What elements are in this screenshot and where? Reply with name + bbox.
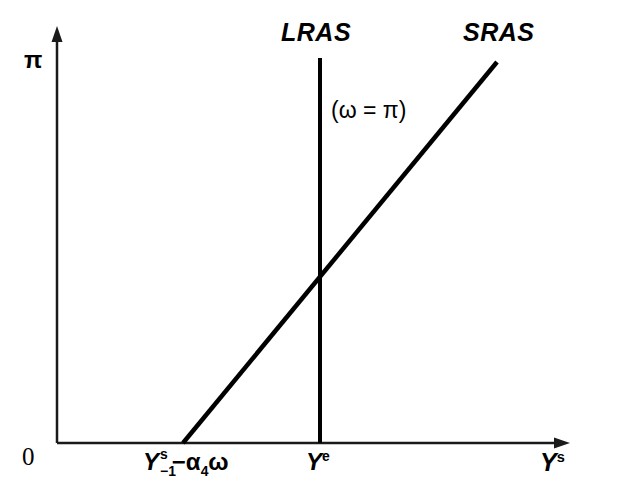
omega-equals-pi-annotation: (ω = π) bbox=[331, 99, 406, 122]
sras-intercept-alpha: α bbox=[186, 448, 201, 475]
sras-intercept-supsub: s−1 bbox=[160, 456, 172, 470]
sras-intercept-superscript: s bbox=[160, 448, 168, 462]
sras-intercept-tick-label: Ys−1−α4ω bbox=[143, 450, 229, 479]
x-axis-label-base: Y bbox=[540, 448, 557, 476]
sras-intercept-base: Y bbox=[143, 448, 159, 475]
lras-curve-label: LRAS bbox=[281, 20, 351, 45]
as-diagram-figure: LRAS SRAS (ω = π) π 0 Ys Ys−1−α4ω Ye bbox=[0, 0, 622, 501]
x-axis-arrowhead bbox=[554, 438, 570, 449]
y-axis-arrowhead bbox=[52, 26, 63, 42]
x-axis-label-superscript: s bbox=[557, 449, 565, 465]
y-axis-label: π bbox=[24, 48, 42, 72]
equilibrium-output-base: Y bbox=[306, 448, 322, 475]
diagram-canvas bbox=[0, 0, 622, 501]
origin-label: 0 bbox=[22, 444, 35, 469]
sras-intercept-omega: ω bbox=[208, 448, 228, 475]
sras-intercept-subscript: −1 bbox=[160, 465, 176, 479]
equilibrium-output-tick-label: Ye bbox=[306, 450, 330, 474]
sras-curve-label: SRAS bbox=[463, 20, 534, 45]
equilibrium-output-superscript: e bbox=[322, 448, 330, 464]
x-axis-label: Ys bbox=[540, 450, 565, 475]
